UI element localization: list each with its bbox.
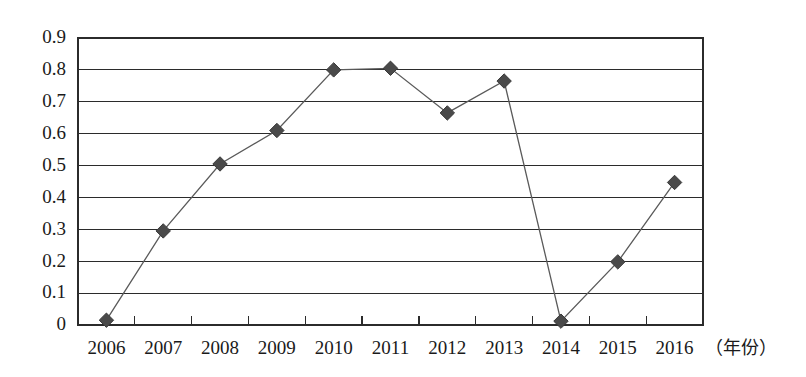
x-axis-tick-label: 2008	[201, 337, 239, 358]
data-point-marker: 2012: 0.665	[440, 106, 454, 120]
y-axis-tick-label: 0.4	[42, 186, 66, 207]
plot-frame	[78, 38, 703, 325]
chart-svg: 0.90.80.70.60.50.40.30.20.10 2006: 0.015…	[0, 0, 806, 377]
y-axis-tick-label: 0.3	[42, 218, 66, 239]
y-axis-tick-label: 0.2	[42, 250, 66, 271]
line-chart-figure: 0.90.80.70.60.50.40.30.20.10 2006: 0.015…	[0, 0, 806, 377]
y-axis-tick-labels: 0.90.80.70.60.50.40.30.20.10	[42, 26, 66, 334]
y-axis-tick-label: 0.1	[42, 281, 66, 302]
y-axis-tick-label: 0.5	[42, 154, 66, 175]
x-axis-title: （年份）	[705, 338, 777, 358]
x-axis-title-label: （年份）	[705, 338, 777, 358]
x-axis-tick-label: 2015	[599, 337, 637, 358]
x-axis-tick-label: 2016	[656, 337, 694, 358]
plot-border	[78, 38, 703, 325]
x-axis-tick-label: 2010	[315, 337, 353, 358]
data-series-line	[106, 68, 674, 321]
x-axis-tick-label: 2009	[258, 337, 296, 358]
gridlines	[78, 70, 703, 293]
chart-page: 0.90.80.70.60.50.40.30.20.10 2006: 0.015…	[0, 0, 806, 377]
y-axis-tick-label: 0.6	[42, 122, 66, 143]
y-axis-tick-label: 0.9	[42, 26, 66, 47]
x-axis-tick-label: 2011	[372, 337, 409, 358]
data-point-marker: 2016: 0.447	[667, 175, 681, 189]
series-line-path	[106, 68, 674, 321]
x-axis-tick-labels: 2006200720082009201020112012201320142015…	[87, 337, 693, 358]
data-point-marker: 2013: 0.765	[497, 74, 511, 88]
y-axis-tick-label: 0.8	[42, 58, 66, 79]
y-axis-tick-label: 0.7	[42, 90, 66, 111]
x-axis-tick-label: 2014	[542, 337, 581, 358]
x-axis-tick-label: 2013	[485, 337, 523, 358]
x-axis-tick-label: 2007	[144, 337, 182, 358]
x-axis-tick-marks	[135, 316, 646, 325]
data-point-marker: 2011: 0.805	[383, 61, 397, 75]
y-axis-tick-label: 0	[57, 313, 67, 334]
x-axis-tick-label: 2012	[428, 337, 466, 358]
x-axis-tick-label: 2006	[87, 337, 125, 358]
